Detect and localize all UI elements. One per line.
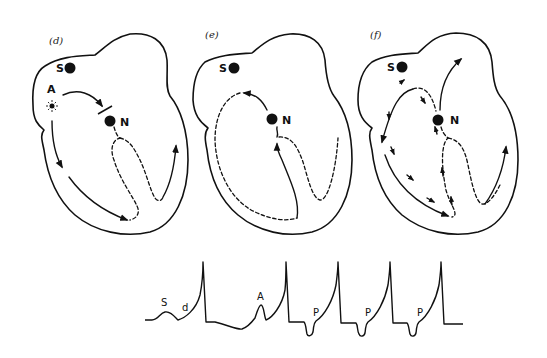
retrograde-arrow-e [244,93,267,110]
ecg-label-a: A [257,291,264,302]
dashed-conduction-loop-d2 [120,138,163,201]
conduction-block-bar [98,106,112,114]
panel-f: (f) S N [358,29,518,234]
sinus-node-f [397,62,408,73]
ventricle-upward-arrow-f [485,147,506,204]
dashed-conduction-loop-e [215,93,297,220]
panel-f-label: (f) [370,29,382,40]
cardiac-conduction-figure: (d) S A N [0,0,547,358]
atrial-wall-arrow-d [52,121,62,167]
ecg-label-s: S [161,297,167,308]
sinus-node-label-d: S [56,62,64,75]
n-connector-e [277,127,278,137]
dashed-conduction-top-f [413,88,436,111]
ecg-label-p1: P [313,307,319,318]
ectopic-focus-label-d: A [47,83,56,96]
ventricle-upward-arrow-d [163,146,176,197]
sinus-node-d [65,63,76,74]
panel-e-label: (e) [205,29,219,40]
heart-outline-f [358,33,518,234]
conduction-arrow-a-to-n [63,92,102,106]
panel-e: (e) S N [193,29,352,234]
dashed-conduction-loop-e2 [279,137,338,200]
dashed-conduction-loop-d [112,127,138,220]
av-node-label-e: N [282,114,291,127]
av-node-label-d: N [120,116,129,129]
ecg-label-p3: P [417,307,423,318]
atrial-upward-arrow-f [440,59,461,110]
ventricle-upward-arrow-e [277,144,298,218]
av-node-d [105,116,116,127]
ecg-strip: S d A P P P [145,262,463,336]
heart-outline-e [193,34,352,234]
av-node-f [433,115,444,126]
atrial-wall-arrow-f [382,89,413,142]
panel-d-label: (d) [49,35,63,46]
ecg-label-p2: P [365,307,371,318]
sinus-node-label-f: S [387,61,395,74]
ventricle-wall-arrow-d [69,177,127,220]
ecg-label-d: d [182,302,188,313]
av-node-label-f: N [450,114,459,127]
panel-d: (d) S A N [33,34,188,235]
dashed-conduction-loop-f2 [448,138,500,204]
sinus-node-label-e: S [219,62,227,75]
ectopic-focus-star-icon [46,100,58,112]
av-node-e [267,114,278,125]
sinus-node-e [229,63,240,74]
ecg-trace [145,262,463,336]
